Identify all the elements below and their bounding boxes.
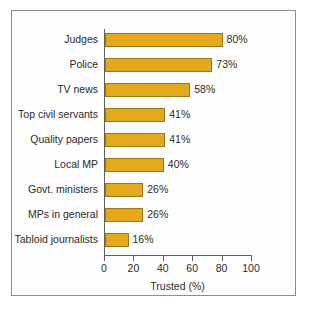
- x-axis-label: Trusted (%): [104, 280, 251, 292]
- x-tick-mark: [192, 256, 193, 261]
- bar: [105, 33, 223, 47]
- bar: [105, 233, 129, 247]
- bar-value-label: 26%: [147, 207, 168, 222]
- bar-value-label: 80%: [227, 32, 248, 47]
- category-label: Top civil servants: [18, 107, 98, 122]
- category-label: Police: [69, 57, 98, 72]
- x-tick-label: 0: [101, 262, 107, 274]
- bar-value-label: 41%: [169, 132, 190, 147]
- x-tick-label: 20: [128, 262, 140, 274]
- category-label: Quality papers: [30, 132, 98, 147]
- x-tick-label: 60: [186, 262, 198, 274]
- x-tick-label: 40: [157, 262, 169, 274]
- x-axis-line: [104, 255, 252, 256]
- figure-frame: Judges80%Police73%TV news58%Top civil se…: [11, 10, 296, 296]
- x-tick-label: 80: [216, 262, 228, 274]
- bar: [105, 208, 143, 222]
- x-tick-mark: [133, 256, 134, 261]
- category-label: Govt. ministers: [28, 182, 98, 197]
- bar: [105, 58, 212, 72]
- bar-value-label: 73%: [216, 57, 237, 72]
- bar: [105, 133, 165, 147]
- bar-value-label: 40%: [168, 157, 189, 172]
- category-label: MPs in general: [28, 207, 98, 222]
- x-tick-mark: [163, 256, 164, 261]
- x-tick-mark: [251, 256, 252, 261]
- bar-value-label: 16%: [133, 232, 154, 247]
- bar: [105, 158, 164, 172]
- bar-value-label: 58%: [194, 82, 215, 97]
- category-label: TV news: [57, 82, 98, 97]
- x-tick-label: 100: [242, 262, 260, 274]
- category-label: Judges: [64, 32, 98, 47]
- category-label: Local MP: [54, 157, 98, 172]
- bar-value-label: 41%: [169, 107, 190, 122]
- x-tick-mark: [104, 256, 105, 261]
- bar: [105, 108, 165, 122]
- bar: [105, 83, 190, 97]
- x-tick-mark: [222, 256, 223, 261]
- bar: [105, 183, 143, 197]
- plot-area: Judges80%Police73%TV news58%Top civil se…: [104, 29, 251, 255]
- bar-value-label: 26%: [147, 182, 168, 197]
- category-label: Tabloid journalists: [15, 232, 98, 247]
